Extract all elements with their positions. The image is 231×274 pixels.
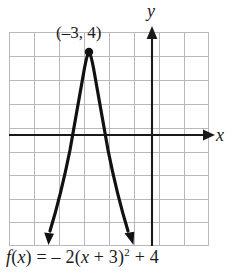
equation-equals-coefficient: = – 2( — [37, 247, 81, 267]
parabola-figure: (–3, 4) y x f(x) = – 2(x + 3)2 + 4 — [0, 0, 231, 274]
equation-inner-rest: + 3) — [89, 247, 124, 267]
x-axis-label: x — [216, 126, 224, 144]
coordinate-plane-graph — [0, 0, 231, 274]
equation-tail: + 4 — [130, 247, 159, 267]
y-axis-label: y — [147, 2, 155, 20]
equation-inner-variable: x — [81, 247, 89, 267]
equation-arg-close: ) — [26, 247, 32, 267]
grid-lines — [9, 32, 209, 246]
vertex-coordinate-label: (–3, 4) — [56, 24, 101, 41]
function-equation: f(x) = – 2(x + 3)2 + 4 — [6, 248, 159, 266]
vertex-point — [85, 48, 93, 56]
equation-variable: x — [17, 247, 25, 267]
